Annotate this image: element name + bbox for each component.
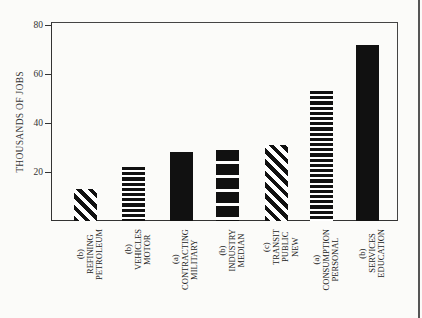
page-margin-rule <box>418 0 420 318</box>
y-tick-80 <box>45 25 51 26</box>
bar-median-industry <box>216 150 239 221</box>
x-label-new-public-transit: (c)TRANSITPUBLICNEW <box>262 229 300 265</box>
x-label-line: MILITARY <box>190 229 200 290</box>
y-tick-label-80: 80 <box>34 20 44 30</box>
x-label-line: MOTOR <box>143 229 153 270</box>
x-label-personal-consumption: (a)CONSUMPTIONPERSONAL <box>312 229 341 290</box>
y-tick-60 <box>45 74 51 75</box>
y-tick-20 <box>45 172 51 173</box>
bar-military-contracting <box>170 152 193 221</box>
y-tick-label-60: 60 <box>34 69 44 79</box>
x-label-line: PETROLEUM <box>95 229 105 280</box>
x-label-education-services: (b)SERVICESEDUCATION <box>358 229 387 278</box>
y-tick-label-20: 20 <box>34 167 44 177</box>
bar-new-public-transit <box>265 145 288 221</box>
bar-petroleum-refining <box>74 189 97 221</box>
y-axis-label: THOUSANDS OF JOBS <box>15 71 25 173</box>
x-label-line: NEW <box>291 229 301 265</box>
x-label-line: MEDIAN <box>237 229 247 272</box>
x-label-line: PERSONAL <box>331 229 341 290</box>
bar-education-services <box>356 45 379 221</box>
x-label-military-contracting: (a)CONTRACTINGMILITARY <box>171 229 200 290</box>
x-label-motor-vehicles: (b)VEHICLESMOTOR <box>124 229 153 270</box>
x-label-median-industry: (b)INDUSTRYMEDIAN <box>218 229 247 272</box>
x-label-line: EDUCATION <box>377 229 387 278</box>
bar-personal-consumption <box>310 91 333 221</box>
y-tick-40 <box>45 123 51 124</box>
y-tick-label-40: 40 <box>34 118 44 128</box>
x-label-petroleum-refining: (b)REFININGPETROLEUM <box>76 229 105 280</box>
bar-motor-vehicles <box>122 167 145 221</box>
